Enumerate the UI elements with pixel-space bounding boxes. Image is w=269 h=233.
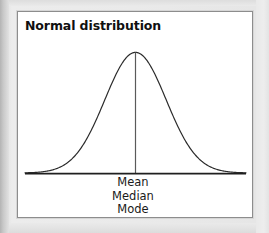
normal-distribution-plot bbox=[18, 12, 254, 219]
page-edge-shading-top bbox=[0, 0, 269, 6]
page-edge-shading-bottom bbox=[0, 223, 269, 233]
page-edge-shading-left bbox=[0, 0, 9, 233]
chart-panel: Normal distribution Mean Median Mode bbox=[17, 11, 253, 218]
figure-root: Normal distribution Mean Median Mode bbox=[0, 0, 269, 233]
page-edge-shading-right bbox=[256, 0, 269, 233]
